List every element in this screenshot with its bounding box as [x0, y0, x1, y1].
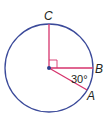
label-b: B — [95, 62, 103, 76]
angle-label: 30° — [71, 73, 88, 85]
circle-diagram: C B A 30° — [0, 0, 106, 118]
label-c: C — [44, 9, 53, 23]
label-a: A — [86, 89, 95, 103]
center-point — [47, 66, 51, 70]
